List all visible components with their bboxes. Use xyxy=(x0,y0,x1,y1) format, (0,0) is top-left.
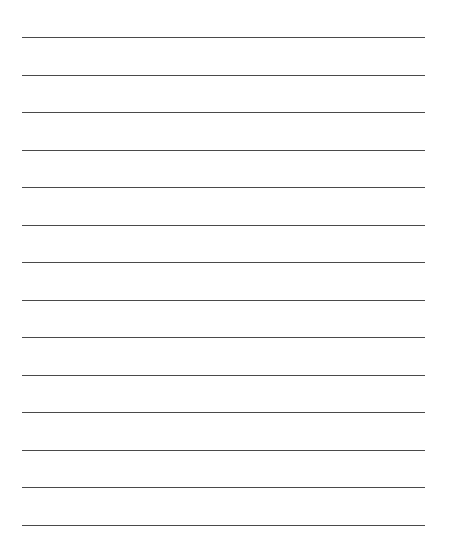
writing-line xyxy=(22,412,425,413)
writing-line xyxy=(22,262,425,263)
writing-line xyxy=(22,150,425,151)
writing-line xyxy=(22,450,425,451)
writing-line xyxy=(22,112,425,113)
ruled-writing-area xyxy=(0,0,450,555)
writing-line xyxy=(22,75,425,76)
writing-line xyxy=(22,337,425,338)
writing-line xyxy=(22,300,425,301)
writing-line xyxy=(22,225,425,226)
writing-line xyxy=(22,375,425,376)
writing-line xyxy=(22,487,425,488)
writing-line xyxy=(22,37,425,38)
writing-line xyxy=(22,525,425,526)
writing-line xyxy=(22,187,425,188)
